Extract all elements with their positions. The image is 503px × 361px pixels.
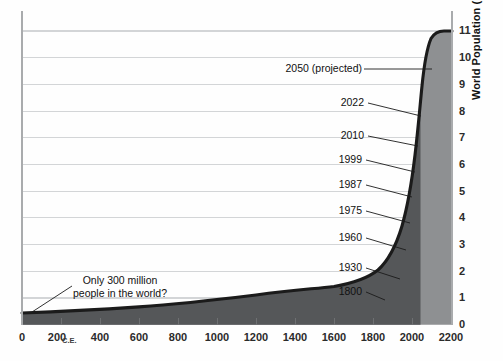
x-tick-1800: 1800 xyxy=(353,331,393,343)
x-tick-800: 800 xyxy=(158,331,198,343)
x-tick-2200: 2200 xyxy=(431,331,471,343)
annotation-1800: 1800 xyxy=(294,285,362,297)
y-tick-3: 3 xyxy=(459,238,465,250)
x-tick-2000: 2000 xyxy=(392,331,432,343)
y-tick-0: 0 xyxy=(459,318,465,330)
y-tick-9: 9 xyxy=(459,78,465,90)
annotation-1987: 1987 xyxy=(294,178,362,190)
x-tick-1200: 1200 xyxy=(236,331,276,343)
y-tick-1: 1 xyxy=(459,291,465,303)
x-tick-400: 400 xyxy=(80,331,120,343)
annotation-1975: 1975 xyxy=(294,204,362,216)
y-tick-5: 5 xyxy=(459,185,465,197)
chart-plot-area xyxy=(0,0,503,361)
callout-line-2: people in the world? xyxy=(60,287,180,300)
world-population-chart: 0 200 C.E. 400 600 800 1000 1200 1400 16… xyxy=(0,0,503,361)
y-tick-7: 7 xyxy=(459,131,465,143)
annotation-1960: 1960 xyxy=(294,231,362,243)
x-tick-1600: 1600 xyxy=(314,331,354,343)
x-tick-1000: 1000 xyxy=(197,331,237,343)
annotation-2010: 2010 xyxy=(296,129,364,141)
x-tick-600: 600 xyxy=(119,331,159,343)
x-tick-1400: 1400 xyxy=(275,331,315,343)
y-tick-4: 4 xyxy=(459,211,465,223)
annotation-2050: 2050 (projected) xyxy=(244,62,362,74)
annotation-1930: 1930 xyxy=(294,261,362,273)
annotation-callout-300-million: Only 300 million people in the world? xyxy=(60,274,180,300)
x-axis-era-label: C.E. xyxy=(62,336,77,345)
annotation-2022: 2022 xyxy=(296,96,364,108)
y-tick-8: 8 xyxy=(459,105,465,117)
y-tick-6: 6 xyxy=(459,158,465,170)
annotation-1999: 1999 xyxy=(294,153,362,165)
y-tick-2: 2 xyxy=(459,265,465,277)
x-tick-0: 0 xyxy=(2,331,42,343)
y-tick-11: 11 xyxy=(459,24,471,36)
y-axis-title: World Population (in billions) xyxy=(470,0,482,100)
callout-line-1: Only 300 million xyxy=(60,274,180,287)
